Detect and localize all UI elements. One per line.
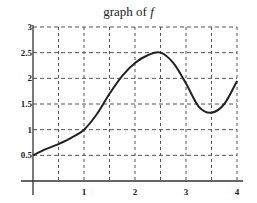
y-tick-label: 2.5	[21, 48, 33, 58]
x-tick-label: 2	[133, 187, 138, 197]
grid	[33, 27, 237, 181]
y-tick-label: 0.5	[21, 150, 33, 160]
axes	[21, 25, 243, 195]
y-tick-label: 3	[28, 22, 33, 32]
y-tick-label: 2	[28, 73, 33, 83]
x-tick-label: 3	[184, 187, 189, 197]
y-tick-label: 1	[28, 125, 33, 135]
x-tick-label: 1	[82, 187, 87, 197]
x-tick-label: 4	[235, 187, 240, 197]
y-tick-label: 1.5	[21, 99, 33, 109]
tick-labels: 12340.511.522.53	[21, 22, 240, 197]
line-chart: 12340.511.522.53	[0, 0, 257, 203]
